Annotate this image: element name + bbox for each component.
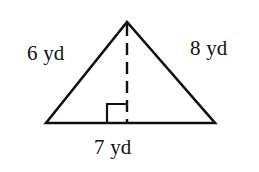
base-length-label: 7 yd xyxy=(94,137,132,158)
right-side-length-label: 8 yd xyxy=(190,38,228,59)
triangle-figure: 6 yd 8 yd 7 yd xyxy=(0,0,259,172)
left-side-length-label: 6 yd xyxy=(27,43,65,64)
right-angle-marker-icon xyxy=(107,104,126,123)
